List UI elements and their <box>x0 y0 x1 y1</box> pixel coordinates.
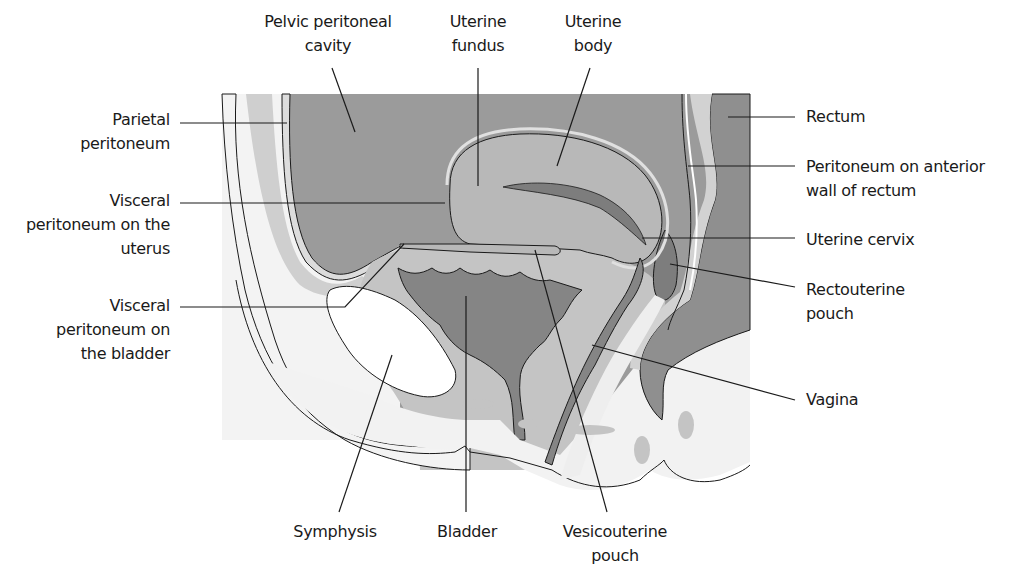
anatomy-illustration <box>222 94 750 490</box>
label-vesicouterine-pouch: Vesicouterine pouch <box>555 520 675 568</box>
tissue-blob <box>565 425 615 435</box>
label-peritoneum-on-anterior-wall-of-rectum: Peritoneum on anterior wall of rectum <box>806 155 985 203</box>
label-uterine-cervix: Uterine cervix <box>806 228 914 252</box>
label-visceral-peritoneum-bladder: Visceral peritoneum on the bladder <box>20 294 170 366</box>
label-uterine-fundus: Uterine fundus <box>440 10 516 58</box>
tissue-blob <box>518 419 538 429</box>
tissue-blob <box>678 411 694 439</box>
label-rectum: Rectum <box>806 105 865 129</box>
tissue-blob <box>634 436 650 464</box>
label-rectouterine-pouch: Rectouterine pouch <box>806 278 905 326</box>
label-bladder: Bladder <box>425 520 509 544</box>
label-visceral-peritoneum-uterus: Visceral peritoneum on the uterus <box>0 189 170 261</box>
label-vagina: Vagina <box>806 388 858 412</box>
label-uterine-body: Uterine body <box>555 10 631 58</box>
tissue-blob <box>462 399 494 409</box>
label-parietal-peritoneum: Parietal peritoneum <box>20 108 170 156</box>
label-pelvic-peritoneal-cavity: Pelvic peritoneal cavity <box>258 10 398 58</box>
label-symphysis: Symphysis <box>280 520 390 544</box>
